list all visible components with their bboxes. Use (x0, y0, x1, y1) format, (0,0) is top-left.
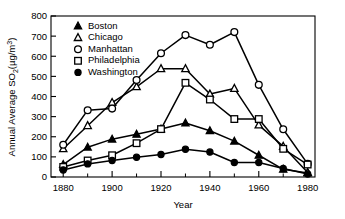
data-point-washington-1930 (182, 146, 188, 152)
y-tick-label-700: 700 (31, 31, 47, 42)
data-point-washington-1910 (133, 154, 139, 160)
data-point-washington-1970 (280, 165, 286, 171)
legend-marker-manhattan (75, 46, 82, 53)
data-point-manhattan-1890 (84, 107, 91, 114)
y-tick-label-0: 0 (42, 171, 47, 182)
data-point-manhattan-1880 (60, 141, 67, 148)
so2-line-chart-figure: 0100200300400500600700800 18801900192019… (0, 0, 345, 219)
data-point-washington-1890 (85, 161, 91, 167)
chart-canvas: 0100200300400500600700800 18801900192019… (0, 0, 345, 219)
legend-label-chicago: Chicago (88, 31, 123, 42)
x-tick-label-1900: 1900 (102, 182, 123, 193)
data-point-washington-1920 (158, 151, 164, 157)
data-point-philadelphia-1970 (280, 146, 287, 153)
data-point-philadelphia-1960 (255, 116, 262, 123)
data-point-philadelphia-1940 (207, 96, 214, 103)
data-point-washington-1940 (207, 149, 213, 155)
y-axis-title-unit-open: (µg/m (6, 45, 17, 70)
y-axis-title: Annual Average SO2(µg/m3) (6, 38, 19, 157)
legend-label-boston: Boston (88, 20, 118, 31)
y-tick-label-800: 800 (31, 10, 47, 21)
y-axis-title-unit-close: ) (6, 38, 17, 41)
y-tick-label-500: 500 (31, 71, 47, 82)
data-point-philadelphia-1980 (304, 161, 311, 168)
data-point-washington-1980 (305, 171, 311, 177)
data-point-philadelphia-1910 (133, 140, 140, 147)
data-point-manhattan-1960 (255, 81, 262, 88)
data-point-manhattan-1940 (206, 41, 213, 48)
y-axis-ticks: 0100200300400500600700800 (31, 10, 56, 182)
y-axis-title-main: Annual Average SO (6, 73, 17, 156)
data-point-washington-1900 (109, 157, 115, 163)
legend-label-philadelphia: Philadelphia (88, 54, 140, 65)
data-point-washington-1960 (256, 159, 262, 165)
x-axis-title: Year (173, 199, 192, 210)
y-tick-label-300: 300 (31, 111, 47, 122)
svg-text:Annual Average SO2(µg/m3): Annual Average SO2(µg/m3) (6, 38, 19, 157)
y-tick-label-600: 600 (31, 51, 47, 62)
x-tick-label-1880: 1880 (53, 182, 74, 193)
data-point-manhattan-1930 (182, 32, 189, 39)
data-point-manhattan-1910 (133, 77, 140, 84)
legend-label-manhattan: Manhattan (88, 43, 133, 54)
x-tick-label-1980: 1980 (297, 182, 318, 193)
y-tick-label-400: 400 (31, 91, 47, 102)
y-tick-label-200: 200 (31, 131, 47, 142)
data-point-manhattan-1950 (231, 29, 238, 36)
legend-marker-washington (75, 69, 81, 75)
data-point-philadelphia-1930 (182, 80, 189, 87)
x-tick-label-1920: 1920 (150, 182, 171, 193)
data-point-philadelphia-1950 (231, 116, 238, 123)
data-point-manhattan-1900 (109, 105, 116, 112)
data-point-philadelphia-1920 (158, 126, 165, 133)
data-point-washington-1950 (231, 159, 237, 165)
legend-label-washington: Washington (88, 66, 138, 77)
y-tick-label-100: 100 (31, 151, 47, 162)
data-point-manhattan-1970 (280, 126, 287, 133)
x-tick-label-1940: 1940 (199, 182, 220, 193)
x-tick-label-1960: 1960 (248, 182, 269, 193)
legend-marker-philadelphia (75, 58, 82, 65)
data-point-washington-1880 (60, 167, 66, 173)
data-point-manhattan-1920 (158, 50, 165, 57)
